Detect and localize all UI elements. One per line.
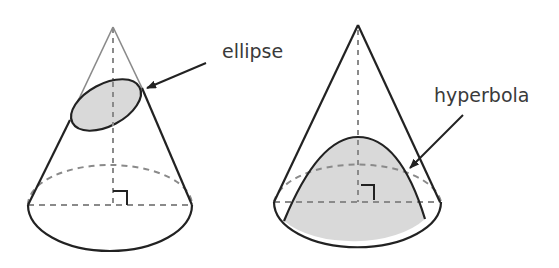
hyperbola-section-fill xyxy=(284,137,425,241)
left-right-angle-marker xyxy=(113,191,127,205)
right-cone xyxy=(274,25,441,247)
left-lower-edge-right xyxy=(142,88,192,205)
ellipse-label: ellipse xyxy=(222,40,283,62)
hyperbola-arrow xyxy=(410,115,463,168)
left-lower-edge-left xyxy=(28,120,70,205)
hyperbola-label: hyperbola xyxy=(434,84,529,106)
ellipse-section xyxy=(63,69,150,142)
left-base-hidden-arc xyxy=(28,165,192,205)
left-cone xyxy=(28,27,192,251)
left-base-front-arc xyxy=(28,205,192,251)
conic-sections-diagram: ellipse hyperbola xyxy=(0,0,559,268)
ellipse-arrow xyxy=(147,63,206,88)
